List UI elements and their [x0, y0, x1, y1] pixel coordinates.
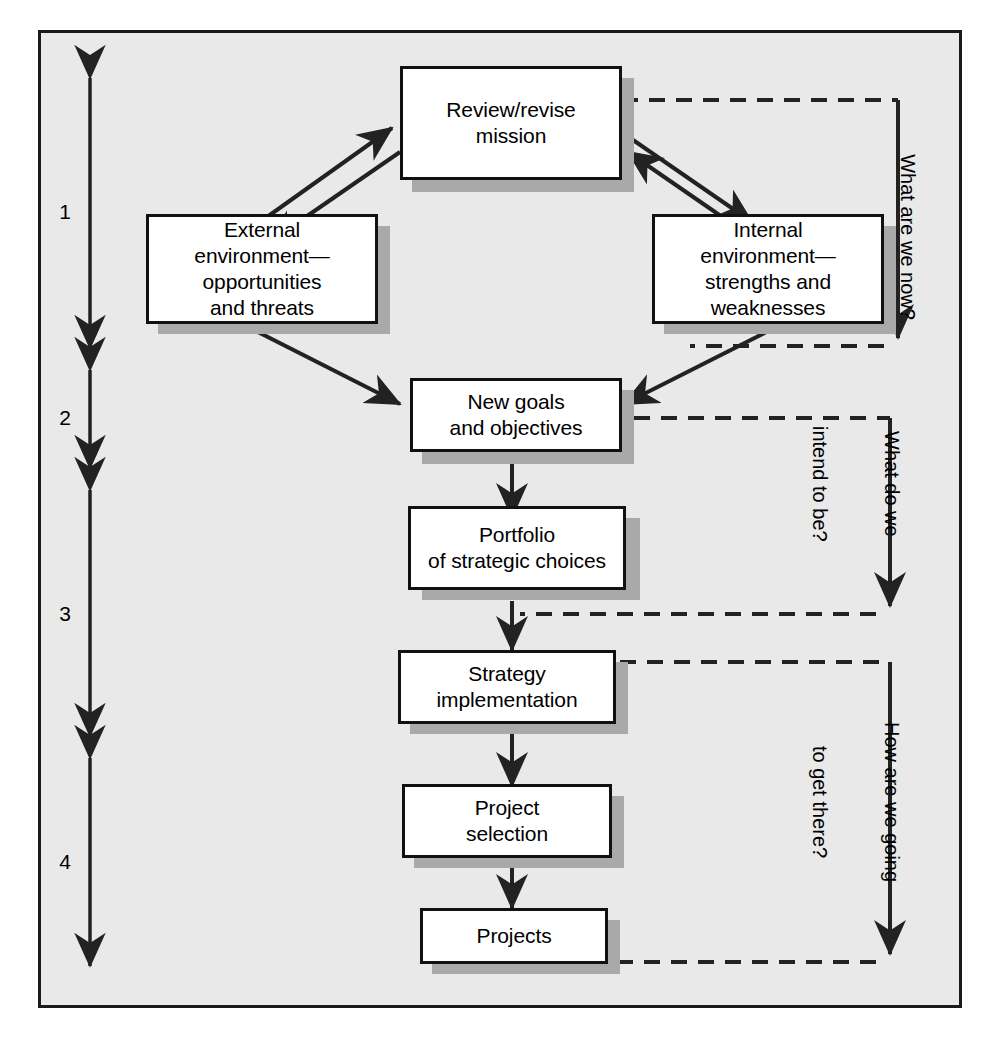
node-project-selection[interactable]: Projectselection	[402, 784, 612, 858]
arrow-internal-to-goals	[624, 322, 786, 404]
feedback-label-line-2: intend to be?	[808, 426, 832, 542]
arrow-external-to-goals	[238, 322, 400, 404]
node-label: New goalsand objectives	[413, 389, 619, 441]
diagram-page: Review/revisemission Externalenvironment…	[0, 0, 1004, 1045]
node-strategy-implementation[interactable]: Strategyimplementation	[398, 650, 616, 724]
feedback-label-how-are-we-going-to-get-there: How are we going to get there?	[760, 722, 952, 882]
node-label: Projectselection	[405, 795, 609, 847]
node-label: Portfolioof strategic choices	[411, 522, 623, 574]
arrow-external-to-mission	[260, 128, 392, 222]
node-label: Internalenvironment—strengths andweaknes…	[655, 217, 881, 321]
feedback-label-line-1: What do we	[880, 426, 904, 542]
node-label: Review/revisemission	[403, 97, 619, 149]
feedback-label-line-1: How are we going	[880, 722, 904, 882]
feedback-label-what-do-we-intend-to-be: What do we intend to be?	[760, 426, 952, 542]
feedback-label-line-2: to get there?	[808, 722, 832, 882]
stage-number-1: 1	[50, 200, 80, 224]
feedback-label-line-1: What are we now?	[897, 154, 919, 320]
node-review-revise-mission[interactable]: Review/revisemission	[400, 66, 622, 180]
stage-number-2: 2	[50, 406, 80, 430]
node-portfolio-of-strategic-choices[interactable]: Portfolioof strategic choices	[408, 506, 626, 590]
arrow-mission-to-internal	[620, 131, 752, 222]
feedback-label-what-are-we-now: What are we now?	[872, 132, 944, 320]
node-label: Externalenvironment—opportunitiesand thr…	[149, 217, 375, 321]
node-new-goals-and-objectives[interactable]: New goalsand objectives	[410, 378, 622, 452]
stage-number-4: 4	[50, 850, 80, 874]
node-internal-environment[interactable]: Internalenvironment—strengths andweaknes…	[652, 214, 884, 324]
stage-number-3: 3	[50, 602, 80, 626]
node-label: Projects	[423, 923, 605, 949]
node-projects[interactable]: Projects	[420, 908, 608, 964]
node-label: Strategyimplementation	[401, 661, 613, 713]
node-external-environment[interactable]: Externalenvironment—opportunitiesand thr…	[146, 214, 378, 324]
